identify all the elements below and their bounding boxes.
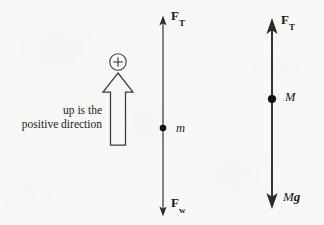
label-tension-left: FT bbox=[171, 9, 185, 26]
left-vector-group bbox=[159, 16, 166, 217]
label-tension-right: FT bbox=[281, 13, 295, 30]
caption-line-1: up is the bbox=[63, 104, 102, 116]
label-weight-left-symbol: F bbox=[171, 195, 179, 210]
label-mass-M: M bbox=[285, 91, 295, 104]
plus-circle-icon bbox=[110, 54, 126, 70]
label-tension-right-symbol: F bbox=[281, 12, 289, 27]
label-weight-right-gravity: g bbox=[294, 189, 301, 204]
label-weight-right: Mg bbox=[283, 190, 300, 203]
positive-direction-caption: up is the positive direction bbox=[4, 103, 102, 132]
label-tension-left-subscript: T bbox=[179, 18, 185, 28]
right-mass-dot bbox=[268, 95, 276, 103]
free-body-diagram-figure: up is the positive direction FT Fw m FT … bbox=[0, 0, 324, 225]
caption-line-2: positive direction bbox=[22, 118, 102, 130]
label-tension-right-subscript: T bbox=[289, 22, 295, 32]
positive-direction-arrow-icon bbox=[103, 73, 133, 145]
label-mass-m: m bbox=[176, 122, 185, 135]
left-mass-dot bbox=[160, 125, 167, 132]
label-weight-left: Fw bbox=[171, 196, 185, 213]
label-weight-right-mass: M bbox=[283, 189, 294, 204]
label-weight-left-subscript: w bbox=[179, 205, 186, 215]
right-vector-group bbox=[266, 18, 277, 209]
label-tension-left-symbol: F bbox=[171, 8, 179, 23]
